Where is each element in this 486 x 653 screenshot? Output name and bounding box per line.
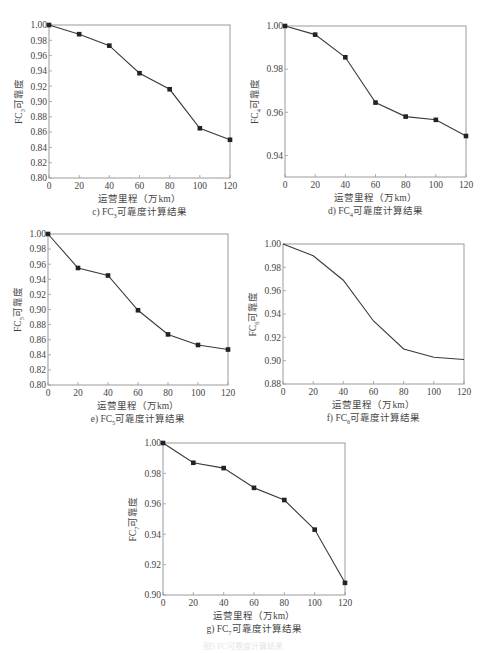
x-axis-label: 运营里程（万km） [98,193,180,204]
data-point [283,24,288,29]
caption-prefix: f) FC [327,413,347,424]
x-tick-label: 100 [191,388,206,398]
data-point [221,466,226,471]
y-tick-label: 0.96 [264,286,281,296]
y-axis-label: FC6可靠度 [247,292,260,337]
caption-suffix: 可靠度计算结果 [117,206,187,217]
x-tick-label: 20 [308,387,318,397]
data-point [196,343,201,348]
y-tick-label: 1.00 [266,21,283,31]
x-tick-label: 80 [280,598,290,608]
x-tick-label: 100 [429,180,444,190]
caption-prefix: d) FC [328,206,350,217]
x-tick-label: 80 [399,387,409,397]
y-label-prefix: FC [250,112,260,124]
data-point [464,134,469,139]
data-point [76,266,81,271]
y-tick-label: 0.94 [29,275,46,285]
data-point [191,460,196,465]
y-tick-label: 0.90 [264,356,281,366]
y-label-prefix: FC [13,320,23,332]
y-tick-label: 0.92 [144,560,161,570]
data-point [136,308,141,313]
data-point [282,498,287,503]
y-tick-label: 0.96 [30,51,47,61]
data-point [47,23,52,28]
caption-prefix: e) FC [91,414,112,425]
series-line-fc7 [163,443,345,583]
y-tick-label: 1.00 [264,239,281,249]
y-axis-label: FC7可靠度 [127,497,140,542]
caption-suffix: 可靠度计算结果 [353,205,423,216]
x-axis-label: 运营里程（万km） [213,610,295,621]
data-point [373,100,378,105]
y-label-suffix: 可靠度 [13,79,24,109]
y-label-prefix: FC [14,112,24,124]
y-tick-label: 0.88 [30,112,47,122]
y-tick-label: 0.90 [30,97,47,107]
x-tick-label: 80 [401,180,411,190]
series-line-fc6 [283,244,464,360]
y-tick-label: 0.90 [29,305,46,315]
x-axis-label: 运营里程（万km） [332,399,414,410]
x-tick-label: 40 [219,598,229,608]
x-tick-label: 60 [249,598,259,608]
series-line-fc4 [285,26,466,136]
data-point [106,273,111,278]
caption-suffix: 可靠度计算结果 [115,413,185,424]
plot-frame [283,244,464,384]
y-label-suffix: 可靠度 [127,497,138,527]
caption-prefix: g) FC [206,624,228,635]
chart-caption: c) FC3可靠度计算结果 [92,206,187,219]
caption-suffix: 可靠度计算结果 [232,623,302,634]
chart-caption: f) FC6可靠度计算结果 [327,412,421,425]
y-tick-label: 1.00 [144,438,161,448]
y-tick-label: 0.84 [29,350,46,360]
x-tick-label: 120 [459,180,474,190]
y-tick-label: 0.98 [30,36,47,46]
data-point [313,32,318,37]
x-tick-label: 40 [339,387,349,397]
data-point [403,114,408,119]
y-tick-label: 1.00 [30,20,47,30]
x-tick-label: 100 [427,387,442,397]
y-tick-label: 0.92 [264,333,281,343]
y-label-suffix: 可靠度 [249,79,260,109]
data-point [228,137,233,142]
data-point [46,232,51,237]
x-tick-label: 120 [223,181,238,191]
chart-panel-c: 0204060801001200.800.820.840.860.880.900… [13,20,237,218]
chart-panel-d: 0204060801001200.940.960.981.00运营里程（万km）… [249,21,473,217]
x-tick-label: 40 [103,388,113,398]
x-tick-label: 100 [193,181,208,191]
x-tick-label: 20 [74,181,84,191]
y-label-prefix: FC [128,530,138,542]
y-tick-label: 0.94 [266,151,283,161]
data-point [167,87,172,92]
x-tick-label: 20 [189,598,199,608]
x-tick-label: 0 [47,181,52,191]
y-axis-label: FC3可靠度 [13,79,26,124]
y-tick-label: 0.98 [144,469,161,479]
x-tick-label: 60 [133,388,143,398]
x-axis-label: 运营里程（万km） [334,192,416,203]
y-tick-label: 0.92 [30,82,47,92]
data-point [252,486,257,491]
y-label-suffix: 可靠度 [247,292,258,322]
y-tick-label: 0.98 [29,244,46,254]
data-point [343,581,348,586]
plot-frame [49,25,230,178]
series-line-fc5 [48,234,228,350]
chart-panel-f: 0204060801001200.880.900.920.940.960.981… [247,239,471,424]
series-line-fc3 [49,25,230,140]
x-tick-label: 0 [283,180,288,190]
y-axis-label: FC5可靠度 [12,287,25,332]
x-tick-label: 0 [281,387,286,397]
y-tick-label: 0.80 [30,173,47,183]
y-tick-label: 0.94 [264,309,281,319]
y-tick-label: 0.90 [144,590,161,600]
chart-caption: g) FC7可靠度计算结果 [206,623,301,636]
y-tick-label: 0.84 [30,143,47,153]
data-point [161,441,166,446]
y-tick-label: 0.92 [29,290,46,300]
